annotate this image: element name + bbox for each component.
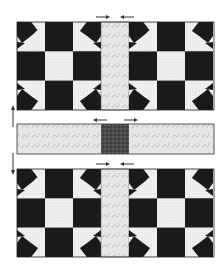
- pressing-arrow-left-icon: [120, 15, 134, 19]
- pressing-arrow-right-icon: [96, 15, 110, 19]
- quilt-block: [17, 169, 101, 257]
- sashing-strip: [17, 124, 101, 154]
- sashing-strip: [101, 22, 129, 110]
- quilt-block: [129, 169, 213, 257]
- pressing-arrow-right-icon: [124, 118, 138, 122]
- sashing-row: [17, 118, 214, 154]
- quilt-assembly-diagram: [0, 0, 222, 270]
- pressing-arrow-left-icon: [120, 162, 134, 166]
- pressing-arrow-right-icon: [96, 162, 110, 166]
- bottom-block-row: [17, 162, 214, 257]
- sashing-strip: [101, 169, 129, 257]
- sashing-strip: [129, 124, 214, 154]
- pressing-arrow-left-icon: [93, 118, 107, 122]
- cornerstone: [101, 124, 129, 154]
- quilt-block: [17, 22, 101, 110]
- arrow-up-icon: [11, 105, 15, 127]
- arrow-down-icon: [11, 153, 15, 175]
- quilt-block: [129, 22, 213, 110]
- top-block-row: [17, 15, 214, 110]
